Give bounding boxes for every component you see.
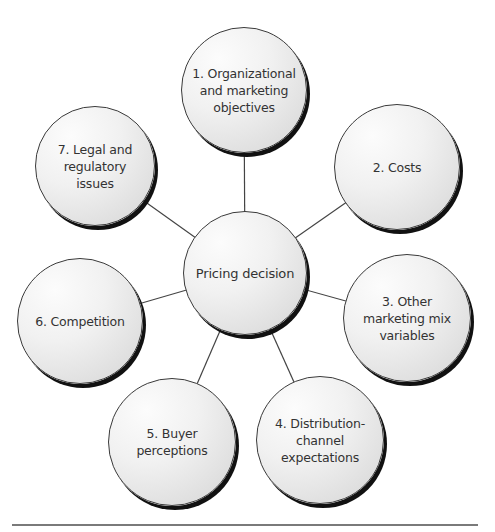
factor-label-7: 7. Legal and regulatory issues [58,141,133,192]
center-label: Pricing decision [196,265,294,282]
bottom-rule-divider [12,524,478,526]
factor-label-6: 6. Competition [35,313,125,330]
pricing-decision-diagram: 1. Organizational and marketing objectiv… [0,0,495,532]
factor-node-3: 3. Other marketing mix variables [343,254,471,382]
factor-label-4: 4. Distribution- channel expectations [275,415,365,466]
factor-node-4: 4. Distribution- channel expectations [256,376,384,504]
factor-label-2: 2. Costs [373,159,422,176]
factor-node-5: 5. Buyer perceptions [108,378,236,506]
factor-node-2: 2. Costs [334,104,460,230]
factor-node-1: 1. Organizational and marketing objectiv… [181,27,307,153]
factor-node-7: 7. Legal and regulatory issues [35,106,155,226]
center-node-pricing-decision: Pricing decision [183,211,307,335]
factor-label-5: 5. Buyer perceptions [136,425,207,459]
factor-label-3: 3. Other marketing mix variables [363,293,451,344]
factor-node-6: 6. Competition [17,258,143,384]
factor-label-1: 1. Organizational and marketing objectiv… [192,65,296,116]
